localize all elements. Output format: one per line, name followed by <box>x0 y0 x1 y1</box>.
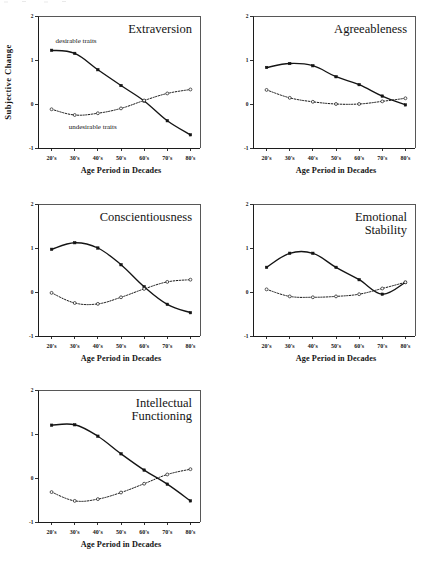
data-point-desirable <box>166 303 169 306</box>
data-point-desirable <box>120 453 123 456</box>
series-line-undesirable <box>52 89 191 115</box>
panel-agreeableness: 210-120's30's40's50's60's70's80'sAge Per… <box>215 4 430 192</box>
data-point-undesirable <box>120 491 123 494</box>
data-point-desirable <box>120 84 123 87</box>
data-point-undesirable <box>189 88 192 91</box>
x-tick-label: 60's <box>354 343 365 349</box>
series-line-desirable <box>267 63 406 105</box>
data-point-undesirable <box>189 278 192 281</box>
data-point-undesirable <box>73 114 76 117</box>
x-tick-label: 40's <box>93 155 104 161</box>
data-point-desirable <box>166 483 169 486</box>
x-tick-label: 40's <box>93 529 104 535</box>
data-point-desirable <box>97 68 100 71</box>
x-tick-label: 50's <box>331 155 342 161</box>
data-point-desirable <box>288 252 291 255</box>
data-point-undesirable <box>50 291 53 294</box>
panel-intellectual-functioning: 210-120's30's40's50's60's70's80'sAge Per… <box>0 378 215 566</box>
x-tick-label: 30's <box>285 343 296 349</box>
data-point-undesirable <box>166 280 169 283</box>
data-point-undesirable <box>143 287 146 290</box>
data-point-desirable <box>189 311 192 314</box>
data-point-desirable <box>166 119 169 122</box>
x-tick-label: 20's <box>47 155 58 161</box>
figure-panels: 210-120's30's40's50's60's70's80'sAge Per… <box>0 0 430 566</box>
x-tick-label: 60's <box>139 343 150 349</box>
data-point-undesirable <box>404 97 407 100</box>
data-point-desirable <box>381 293 384 296</box>
data-point-undesirable <box>265 288 268 291</box>
x-tick-label: 30's <box>70 343 81 349</box>
x-tick-label: 40's <box>308 155 319 161</box>
data-point-undesirable <box>288 96 291 99</box>
data-point-desirable <box>143 469 146 472</box>
data-point-desirable <box>404 104 407 107</box>
panel-title-line2: Stability <box>365 223 408 237</box>
x-axis-title: Age Period in Decades <box>296 166 377 175</box>
y-tick-label: -1 <box>29 519 34 525</box>
x-tick-label: 40's <box>93 343 104 349</box>
data-point-desirable <box>50 49 53 52</box>
data-point-undesirable <box>120 107 123 110</box>
chart-conscientiousness: 210-120's30's40's50's60's70's80'sAge Per… <box>0 192 215 380</box>
x-tick-label: 70's <box>162 155 173 161</box>
x-axis-title: Age Period in Decades <box>81 540 162 549</box>
data-point-desirable <box>335 266 338 269</box>
data-point-desirable <box>97 435 100 438</box>
x-tick-label: 20's <box>47 343 58 349</box>
data-point-undesirable <box>143 99 146 102</box>
data-point-desirable <box>189 500 192 503</box>
x-tick-label: 60's <box>354 155 365 161</box>
annotation-undesirable-traits: undesirable traits <box>69 123 117 131</box>
y-tick-label: 1 <box>246 57 249 63</box>
x-tick-label: 80's <box>400 155 411 161</box>
panel-title: Intellectual <box>136 396 193 410</box>
data-point-desirable <box>312 252 315 255</box>
x-tick-label: 70's <box>377 343 388 349</box>
data-point-desirable <box>97 247 100 250</box>
data-point-desirable <box>73 52 76 55</box>
data-point-undesirable <box>288 295 291 298</box>
data-point-desirable <box>358 278 361 281</box>
chart-intellectual-functioning: 210-120's30's40's50's60's70's80'sAge Per… <box>0 378 215 566</box>
series-line-desirable <box>52 424 191 501</box>
x-tick-label: 30's <box>285 155 296 161</box>
x-tick-label: 20's <box>262 155 273 161</box>
panel-title: Agreeableness <box>334 22 407 36</box>
y-tick-label: -1 <box>244 145 249 151</box>
y-tick-label: 0 <box>246 101 249 107</box>
panel-title: Emotional <box>355 210 408 224</box>
data-point-desirable <box>265 266 268 269</box>
x-tick-label: 60's <box>139 529 150 535</box>
data-point-undesirable <box>189 468 192 471</box>
x-tick-label: 70's <box>162 529 173 535</box>
x-tick-label: 20's <box>47 529 58 535</box>
x-tick-label: 70's <box>377 155 388 161</box>
x-tick-label: 50's <box>116 529 127 535</box>
data-point-undesirable <box>96 302 99 305</box>
x-tick-label: 80's <box>185 343 196 349</box>
y-tick-label: 2 <box>246 13 249 19</box>
y-tick-label: -1 <box>29 333 34 339</box>
y-tick-label: 2 <box>31 201 34 207</box>
panel-extraversion: 210-120's30's40's50's60's70's80'sAge Per… <box>0 4 215 192</box>
data-point-undesirable <box>96 112 99 115</box>
y-tick-label: 2 <box>246 201 249 207</box>
data-point-desirable <box>335 75 338 78</box>
y-tick-label: -1 <box>29 145 34 151</box>
x-tick-label: 20's <box>262 343 273 349</box>
data-point-undesirable <box>335 103 338 106</box>
data-point-desirable <box>73 241 76 244</box>
x-tick-label: 50's <box>116 155 127 161</box>
x-tick-label: 80's <box>185 155 196 161</box>
data-point-undesirable <box>265 88 268 91</box>
data-point-undesirable <box>96 498 99 501</box>
data-point-undesirable <box>143 482 146 485</box>
data-point-desirable <box>265 66 268 69</box>
data-point-desirable <box>358 83 361 86</box>
y-tick-label: 1 <box>31 57 34 63</box>
y-axis-title: Subjective Change <box>3 44 13 119</box>
data-point-undesirable <box>381 287 384 290</box>
y-tick-label: 2 <box>31 387 34 393</box>
data-point-desirable <box>50 248 53 251</box>
